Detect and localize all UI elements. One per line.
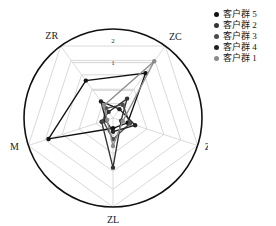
axis-spoke — [113, 46, 165, 118]
tick-label-2: 2 — [111, 37, 115, 45]
tick-label-1: 1 — [111, 59, 115, 67]
legend-label: 客户群 4 — [223, 42, 257, 53]
legend-item[interactable]: 客户群 2 — [214, 20, 276, 31]
legend-marker-icon — [214, 56, 219, 61]
legend-label: 客户群 2 — [223, 20, 257, 31]
legend-marker-icon — [214, 23, 219, 28]
chart-plot-area: ZR ZC ZF ZL M 2 1 — [0, 0, 208, 226]
axis-label-zr: ZR — [45, 30, 58, 41]
legend-label: 客户群 1 — [223, 53, 257, 64]
legend-item[interactable]: 客户群 4 — [214, 42, 276, 53]
legend-marker-icon — [214, 34, 219, 39]
legend-item[interactable]: 客户群 3 — [214, 31, 276, 42]
series-data-point — [99, 99, 103, 103]
radar-chart-figure: ZR ZC ZF ZL M 2 1 客户群 5客户群 2客户群 3客户群 4客户… — [0, 0, 276, 226]
series-data-point — [117, 107, 121, 111]
series-data-point — [152, 59, 156, 63]
legend-label: 客户群 5 — [223, 9, 257, 20]
axis-label-zl: ZL — [107, 214, 119, 225]
series-data-point — [120, 103, 124, 107]
axis-label-zc: ZC — [169, 31, 182, 42]
series-data-point — [84, 78, 88, 82]
series-data-point — [46, 137, 50, 141]
series-data-point — [111, 165, 115, 169]
series-data-point — [133, 123, 137, 127]
series-data-point — [111, 144, 115, 148]
legend-label: 客户群 3 — [223, 31, 257, 42]
legend-item[interactable]: 客户群 1 — [214, 53, 276, 64]
axis-label-zf: ZF — [205, 141, 208, 152]
legend-item[interactable]: 客户群 5 — [214, 9, 276, 20]
series-data-point — [121, 119, 125, 123]
series-data-point — [106, 110, 110, 114]
axis-label-m: M — [10, 141, 19, 152]
radar-svg: ZR ZC ZF ZL M 2 1 — [0, 0, 208, 226]
legend-marker-icon — [214, 12, 219, 17]
series-data-point — [105, 118, 109, 122]
series-data-point — [125, 96, 129, 100]
legend: 客户群 5客户群 2客户群 3客户群 4客户群 1 — [214, 9, 276, 64]
series-data-point — [111, 129, 115, 133]
series-data-point — [102, 103, 106, 107]
series-group — [46, 59, 156, 170]
legend-marker-icon — [214, 45, 219, 50]
